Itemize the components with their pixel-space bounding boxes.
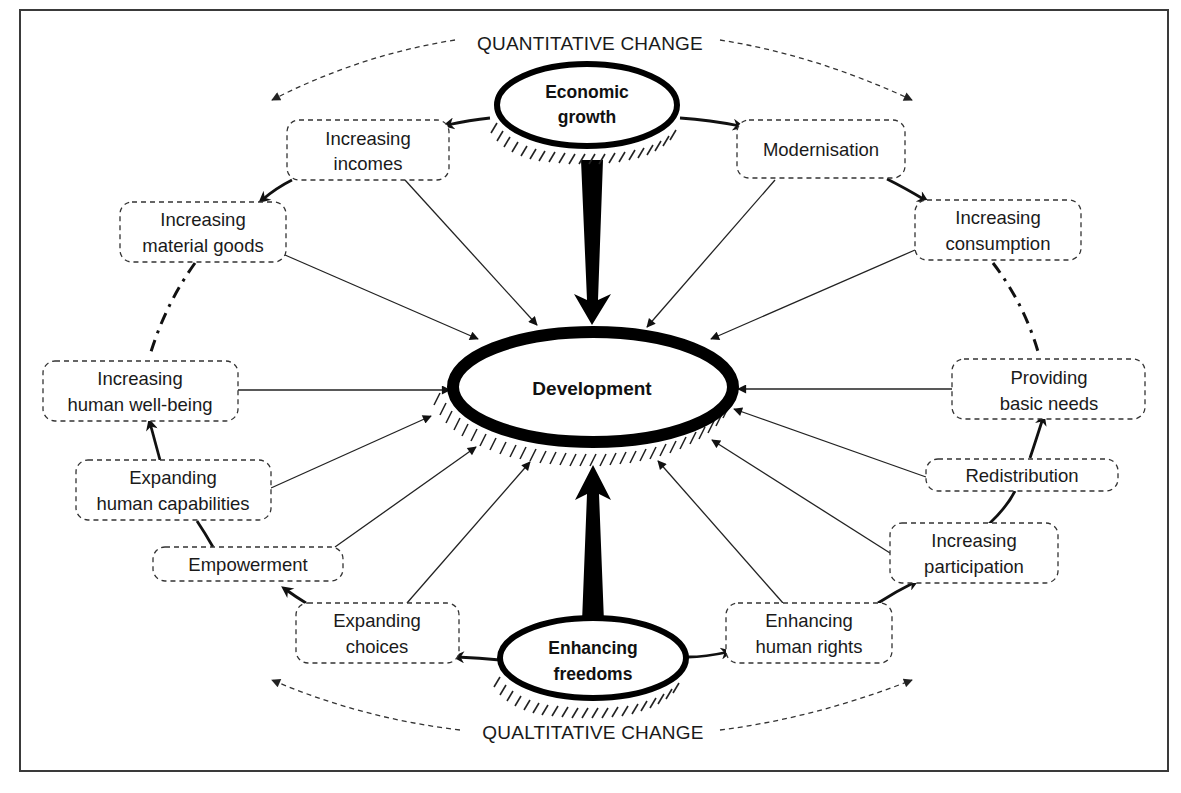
increasing-participation-line2: participation <box>924 556 1024 577</box>
economic-growth-label-line1: Economic <box>545 82 629 102</box>
economic-growth-ellipse <box>497 64 677 146</box>
providing-basic-needs-line1: Providing <box>1010 367 1087 388</box>
node-empowerment[interactable]: Empowerment <box>153 547 343 581</box>
modernisation-label: Modernisation <box>763 139 879 160</box>
economic-growth-to-development-arrow <box>574 160 611 325</box>
enhancing-human-rights-line1: Enhancing <box>765 610 852 631</box>
node-increasing-consumption[interactable]: Increasing consumption <box>915 200 1081 260</box>
expanding-choices-line2: choices <box>346 636 409 657</box>
increasing-incomes-line1: Increasing <box>325 128 410 149</box>
increasing-human-well-being-line1: Increasing <box>97 368 182 389</box>
node-increasing-incomes[interactable]: Increasing incomes <box>287 120 449 180</box>
increasing-human-well-being-line2: human well-being <box>67 394 212 415</box>
development-node[interactable]: Development <box>434 332 733 466</box>
development-label: Development <box>532 378 652 399</box>
economic-growth-label-line2: growth <box>558 107 616 127</box>
node-increasing-participation[interactable]: Increasing participation <box>890 523 1058 583</box>
node-increasing-human-well-being[interactable]: Increasing human well-being <box>43 361 238 421</box>
enhancing-freedoms-label-line2: freedoms <box>554 664 633 684</box>
enhancing-human-rights-line2: human rights <box>756 636 863 657</box>
quantitative-change-label: QUANTITATIVE CHANGE <box>477 33 703 54</box>
enhancing-freedoms-label-line1: Enhancing <box>548 638 637 658</box>
development-diagram: QUANTITATIVE CHANGE QUALTITATIVE CHANGE <box>0 0 1181 793</box>
node-expanding-choices[interactable]: Expanding choices <box>296 603 459 663</box>
enhancing-freedoms-to-development-arrow <box>575 465 611 622</box>
node-redistribution[interactable]: Redistribution <box>926 459 1118 491</box>
node-expanding-human-capabilities[interactable]: Expanding human capabilities <box>76 460 271 520</box>
node-modernisation[interactable]: Modernisation <box>737 120 905 178</box>
increasing-participation-line1: Increasing <box>931 530 1016 551</box>
increasing-material-goods-line1: Increasing <box>160 209 245 230</box>
enhancing-freedoms-ellipse <box>500 618 686 698</box>
enhancing-freedoms-node[interactable]: Enhancing freedoms <box>494 618 686 718</box>
increasing-incomes-line2: incomes <box>334 153 403 174</box>
expanding-human-capabilities-line2: human capabilities <box>96 493 249 514</box>
node-increasing-material-goods[interactable]: Increasing material goods <box>120 202 286 262</box>
economic-growth-node[interactable]: Economic growth <box>491 64 677 164</box>
increasing-consumption-line2: consumption <box>946 233 1051 254</box>
node-enhancing-human-rights[interactable]: Enhancing human rights <box>726 603 892 663</box>
increasing-material-goods-line2: material goods <box>142 235 263 256</box>
redistribution-label: Redistribution <box>965 465 1078 486</box>
expanding-human-capabilities-line1: Expanding <box>129 467 216 488</box>
providing-basic-needs-line2: basic needs <box>1000 393 1099 414</box>
empowerment-label: Empowerment <box>188 554 307 575</box>
qualitative-change-label: QUALTITATIVE CHANGE <box>482 722 703 743</box>
increasing-consumption-line1: Increasing <box>955 207 1040 228</box>
node-providing-basic-needs[interactable]: Providing basic needs <box>952 359 1145 419</box>
expanding-choices-line1: Expanding <box>333 610 420 631</box>
